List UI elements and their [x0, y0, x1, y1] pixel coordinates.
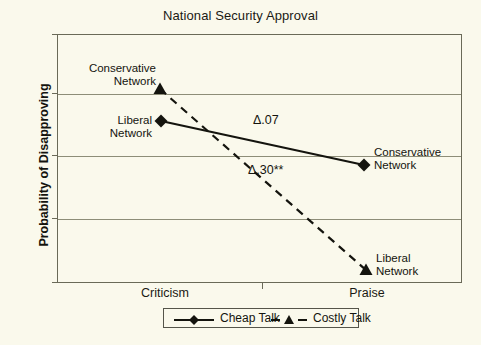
point-label-line2: Network: [374, 159, 474, 172]
x-tick-label-praise: Praise: [322, 286, 412, 300]
y-tick-mark-065: [52, 155, 57, 156]
point-label-line1: Liberal: [376, 252, 476, 265]
annotation-delta-costly-talk: Δ.30**: [248, 163, 283, 177]
legend-entry-cheap-talk: Cheap Talk: [172, 309, 280, 327]
point-label-line1: Conservative: [374, 146, 474, 159]
point-label-cheap-talk-criticism: Liberal Network: [58, 114, 152, 139]
chart-title: National Security Approval: [0, 8, 481, 23]
y-tick-mark-075: [52, 93, 57, 94]
y-tick-mark-085: [52, 34, 57, 35]
annotation-delta-cheap-talk: Δ.07: [253, 113, 279, 127]
point-label-line2: Network: [58, 75, 156, 88]
y-tick-mark-045: [52, 282, 57, 283]
y-tick-mark-055: [52, 218, 57, 219]
point-label-costly-talk-praise: Liberal Network: [376, 252, 476, 277]
legend-marker-triangle-icon: [269, 312, 309, 324]
y-axis-title: Probability of Disapproving: [37, 35, 51, 295]
point-label-line1: Conservative: [58, 62, 156, 75]
gridline-075: [58, 94, 461, 95]
legend-entry-costly-talk: Costly Talk: [269, 309, 371, 327]
gridline-055: [58, 219, 461, 220]
chart-canvas: National Security Approval Probability o…: [0, 0, 481, 345]
chart-legend: Cheap Talk Costly Talk: [163, 308, 359, 328]
point-label-line2: Network: [376, 265, 476, 278]
x-tick-label-criticism: Criticism: [120, 286, 210, 300]
point-label-costly-talk-criticism: Conservative Network: [58, 62, 156, 87]
legend-marker-diamond-icon: [172, 312, 216, 324]
x-tick-mark-center: [262, 283, 263, 289]
point-label-line2: Network: [58, 127, 152, 140]
point-label-cheap-talk-praise: Conservative Network: [374, 146, 474, 171]
point-label-line1: Liberal: [58, 114, 152, 127]
legend-label-costly-talk: Costly Talk: [313, 311, 371, 325]
